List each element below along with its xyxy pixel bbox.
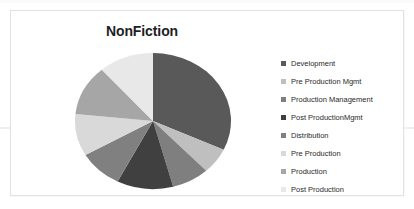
legend-item[interactable]: Distribution — [279, 126, 403, 144]
legend-swatch-icon — [281, 133, 286, 138]
pie-slices — [75, 53, 231, 189]
legend-item[interactable]: Post Production — [279, 180, 403, 198]
legend-item-label: Pre Production — [291, 149, 341, 158]
pie-chart — [73, 51, 233, 191]
legend-swatch-icon — [281, 79, 286, 84]
chart-frame: NonFiction DevelopmentPre Production Mgm… — [10, 10, 404, 196]
legend-item-label: Production — [291, 167, 327, 176]
legend-swatch-icon — [281, 115, 286, 120]
legend-item-label: Development — [291, 59, 335, 68]
scan-artifact-top — [0, 0, 414, 3]
legend-item[interactable]: Production — [279, 162, 403, 180]
legend-item[interactable]: Pre Production — [279, 144, 403, 162]
legend-swatch-icon — [281, 97, 286, 102]
legend-item[interactable]: Pre Production Mgmt — [279, 72, 403, 90]
legend-swatch-icon — [281, 169, 286, 174]
pie-chart-svg — [73, 51, 233, 191]
legend-swatch-icon — [281, 61, 286, 66]
legend-swatch-icon — [281, 187, 286, 192]
legend-item[interactable]: Post ProductionMgmt — [279, 108, 403, 126]
legend-item-label: Post ProductionMgmt — [291, 113, 363, 122]
legend-item[interactable]: Development — [279, 54, 403, 72]
legend-item-label: Post Production — [291, 185, 344, 194]
legend-item-label: Distribution — [291, 131, 329, 140]
legend-swatch-icon — [281, 151, 286, 156]
legend-item-label: Production Management — [291, 95, 373, 104]
legend-item-label: Pre Production Mgmt — [291, 77, 361, 86]
chart-title: NonFiction — [11, 23, 273, 39]
chart-legend: DevelopmentPre Production MgmtProduction… — [279, 54, 403, 198]
legend-item[interactable]: Production Management — [279, 90, 403, 108]
